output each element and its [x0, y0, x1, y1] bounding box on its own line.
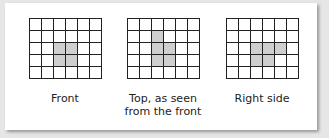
- grid-cell: [66, 31, 78, 43]
- grid-cell: [164, 31, 176, 43]
- grid-cell: [239, 67, 251, 79]
- grid-cell: [176, 19, 188, 31]
- grid-cell: [287, 19, 299, 31]
- shaded-cell: [263, 55, 275, 67]
- grid-cell: [42, 31, 54, 43]
- grid-cell: [188, 55, 200, 67]
- grid-cell: [227, 19, 239, 31]
- grid-cell: [128, 31, 140, 43]
- front-grid: [29, 18, 102, 79]
- grid-cell: [239, 31, 251, 43]
- grid-cell: [140, 31, 152, 43]
- grid-cell: [128, 67, 140, 79]
- grid-cell: [90, 19, 102, 31]
- front-caption: Front: [51, 92, 79, 105]
- right-side-grid: [226, 18, 299, 79]
- grid-cell: [128, 43, 140, 55]
- grid-cell: [30, 31, 42, 43]
- grid-cell: [287, 31, 299, 43]
- shaded-cell: [251, 43, 263, 55]
- front-view: Front: [13, 18, 117, 105]
- views-panel: Front Top, as seen from the front Right …: [5, 3, 317, 130]
- grid-cell: [176, 31, 188, 43]
- grid-cell: [239, 43, 251, 55]
- grid-cell: [275, 67, 287, 79]
- shaded-cell: [263, 43, 275, 55]
- grid-cell: [140, 67, 152, 79]
- grid-cell: [287, 43, 299, 55]
- grid-cell: [30, 43, 42, 55]
- grid-cell: [239, 19, 251, 31]
- grid-cell: [78, 67, 90, 79]
- grid-cell: [30, 67, 42, 79]
- grid-cell: [66, 19, 78, 31]
- right-side-view: Right side: [210, 18, 314, 105]
- grid-cell: [263, 19, 275, 31]
- shaded-cell: [54, 55, 66, 67]
- grid-cell: [42, 67, 54, 79]
- grid-cell: [227, 67, 239, 79]
- grid-cell: [152, 67, 164, 79]
- grid-cell: [251, 67, 263, 79]
- grid-cell: [275, 19, 287, 31]
- grid-cell: [54, 19, 66, 31]
- grid-cell: [287, 55, 299, 67]
- shaded-cell: [54, 43, 66, 55]
- top-grid: [127, 18, 200, 79]
- grid-cell: [90, 55, 102, 67]
- grid-cell: [30, 55, 42, 67]
- top-caption: Top, as seen from the front: [125, 92, 202, 118]
- grid-cell: [78, 31, 90, 43]
- grid-cell: [90, 43, 102, 55]
- grid-cell: [140, 43, 152, 55]
- grid-cell: [275, 55, 287, 67]
- grid-cell: [239, 55, 251, 67]
- grid-cell: [227, 55, 239, 67]
- grid-cell: [176, 55, 188, 67]
- grid-cell: [251, 31, 263, 43]
- grid-cell: [90, 31, 102, 43]
- grid-cell: [66, 67, 78, 79]
- grid-cell: [263, 31, 275, 43]
- shaded-cell: [152, 31, 164, 43]
- grid-cell: [54, 31, 66, 43]
- grid-cell: [42, 43, 54, 55]
- grid-cell: [78, 43, 90, 55]
- shaded-cell: [164, 43, 176, 55]
- grid-cell: [90, 67, 102, 79]
- shaded-cell: [164, 55, 176, 67]
- grid-cell: [176, 67, 188, 79]
- shaded-cell: [152, 43, 164, 55]
- grid-cell: [188, 19, 200, 31]
- grid-cell: [78, 19, 90, 31]
- grid-cell: [152, 19, 164, 31]
- grid-cell: [251, 19, 263, 31]
- grid-cell: [188, 67, 200, 79]
- grid-cell: [275, 31, 287, 43]
- grid-cell: [287, 67, 299, 79]
- grid-cell: [164, 19, 176, 31]
- grid-cell: [188, 31, 200, 43]
- grid-cell: [140, 55, 152, 67]
- right-side-caption: Right side: [235, 92, 290, 105]
- grid-cell: [140, 19, 152, 31]
- grid-cell: [42, 19, 54, 31]
- grid-cell: [42, 55, 54, 67]
- shaded-cell: [66, 55, 78, 67]
- shaded-cell: [66, 43, 78, 55]
- shaded-cell: [152, 55, 164, 67]
- grid-cell: [54, 67, 66, 79]
- top-view: Top, as seen from the front: [111, 18, 215, 118]
- grid-cell: [263, 67, 275, 79]
- grid-cell: [30, 19, 42, 31]
- grid-cell: [78, 55, 90, 67]
- grid-cell: [227, 43, 239, 55]
- shaded-cell: [251, 55, 263, 67]
- grid-cell: [164, 67, 176, 79]
- grid-cell: [128, 19, 140, 31]
- grid-cell: [188, 43, 200, 55]
- grid-cell: [227, 31, 239, 43]
- shaded-cell: [275, 43, 287, 55]
- grid-cell: [128, 55, 140, 67]
- grid-cell: [176, 43, 188, 55]
